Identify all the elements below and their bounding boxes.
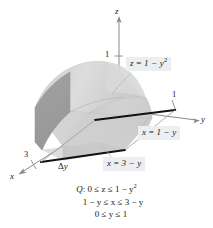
callout-top-surface: z = 1 − y2 [126, 57, 171, 71]
caption-exponent: 2 [133, 182, 136, 189]
caption-line-2: 1 − y ≤ x ≤ 3 − y [0, 196, 213, 209]
callout-rhs: 3 − y [121, 158, 141, 168]
axis-tick-z-1: 1 [105, 50, 109, 59]
caption-line-1: Q: 0 ≤ z ≤ 1 − y2 [0, 183, 213, 196]
callout-lhs: x [142, 127, 146, 137]
axis-tick-y-1: 1 [172, 90, 176, 99]
axis-label-y: y [201, 115, 205, 124]
axis-tick-x-3: 3 [24, 150, 28, 159]
caption-colon: : [83, 184, 86, 194]
callout-eq: = [149, 127, 154, 137]
figure-container: z 1 y 1 x 3 Δy z = 1 − y2 x = 1 − y x = … [0, 0, 213, 228]
callout-lhs: x [107, 158, 111, 168]
axis-label-x: x [10, 172, 14, 181]
callout-rhs: 1 − y [156, 127, 176, 137]
callout-eq: = [136, 58, 141, 68]
caption-line-3: 0 ≤ y ≤ 1 [0, 208, 213, 221]
delta-variable: y [64, 161, 68, 171]
callout-rhs: 1 − y [144, 58, 164, 68]
callout-eq: = [114, 158, 119, 168]
callout-lhs: z [130, 58, 134, 68]
caption-block: Q: 0 ≤ z ≤ 1 − y2 1 − y ≤ x ≤ 3 − y 0 ≤ … [0, 183, 213, 221]
solid-q [35, 61, 152, 160]
callout-front-plane: x = 1 − y [138, 126, 180, 140]
axis-label-z: z [115, 7, 119, 16]
callout-exponent: 2 [164, 56, 167, 63]
delta-y-label: Δy [58, 162, 68, 171]
caption-inequality-z: 0 ≤ z ≤ 1 − y [88, 184, 134, 194]
callout-back-plane: x = 3 − y [103, 157, 145, 171]
